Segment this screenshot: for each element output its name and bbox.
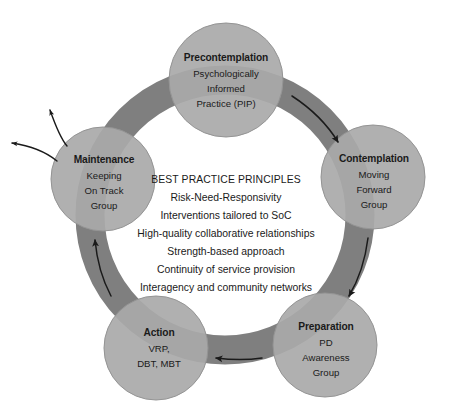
center-principle-2: Interventions tailored to SoC <box>160 210 292 221</box>
node-sub-precontemplation-2: Informed <box>207 83 245 94</box>
center-heading: BEST PRACTICE PRINCIPLES <box>151 174 300 185</box>
node-title-maintenance: Maintenance <box>74 154 135 165</box>
node-sub-action-1: VRP, <box>148 343 169 354</box>
node-title-precontemplation: Precontemplation <box>184 52 268 63</box>
node-sub-preparation-3: Group <box>313 367 340 378</box>
node-sub-contemplation-3: Group <box>361 199 388 210</box>
node-sub-precontemplation-3: Practice (PIP) <box>196 98 255 109</box>
node-circle-precontemplation[interactable] <box>169 23 283 137</box>
node-sub-maintenance-2: On Track <box>85 185 124 196</box>
center-principle-6: Interagency and community networks <box>140 282 312 293</box>
node-sub-maintenance-1: Keeping <box>86 170 121 181</box>
center-principle-3: High-quality collaborative relationships <box>137 228 314 239</box>
node-sub-preparation-1: PD <box>319 337 332 348</box>
node-sub-maintenance-3: Group <box>91 200 118 211</box>
center-principle-4: Strength-based approach <box>167 246 284 257</box>
node-title-preparation: Preparation <box>298 321 354 332</box>
diagram-canvas: Precontemplation Psychologically Informe… <box>0 0 450 419</box>
node-sub-action-2: DBT, MBT <box>137 358 181 369</box>
center-principle-1: Risk-Need-Responsivity <box>171 192 283 203</box>
node-sub-contemplation-1: Moving <box>359 169 390 180</box>
node-sub-preparation-2: Awareness <box>302 352 349 363</box>
exit-arrow-lower <box>12 143 57 161</box>
node-title-contemplation: Contemplation <box>339 153 409 164</box>
exit-arrow-upper <box>50 110 67 146</box>
node-title-action: Action <box>143 327 174 338</box>
center-principle-5: Continuity of service provision <box>157 264 295 275</box>
center-principles-block: BEST PRACTICE PRINCIPLES Risk-Need-Respo… <box>137 174 314 293</box>
node-sub-contemplation-2: Forward <box>356 184 391 195</box>
cycle-of-change-diagram: Precontemplation Psychologically Informe… <box>0 0 450 419</box>
node-sub-precontemplation-1: Psychologically <box>193 68 259 79</box>
